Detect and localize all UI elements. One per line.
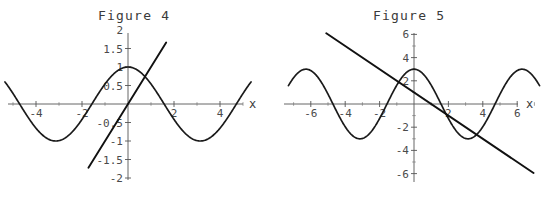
- line-1-x: [326, 33, 533, 173]
- y-tick-label: -2: [396, 121, 409, 134]
- x-tick-label: -6: [304, 107, 317, 120]
- y-tick-label: -1.5: [97, 154, 124, 167]
- y-tick-label: -6: [396, 168, 409, 181]
- x-tick-label: 4: [217, 107, 224, 120]
- line-x: [88, 43, 166, 168]
- figure-4-plot: -4-22421.510.5-0.5-1-1.5-2x: [0, 0, 276, 202]
- figure-5-plot: -6-4-2246642-2-4-6x: [276, 0, 553, 202]
- figure-4-svg: -4-22421.510.5-0.5-1-1.5-2x: [0, 0, 276, 202]
- figure-4: Figure 4 -4-22421.510.5-0.5-1-1.5-2x: [0, 0, 276, 202]
- y-tick-label: 1.5: [103, 43, 123, 56]
- x-tick-label: 4: [479, 107, 486, 120]
- y-tick-label: -1: [110, 135, 123, 148]
- y-tick-label: 2: [116, 24, 123, 37]
- y-tick-label: 4: [402, 52, 409, 65]
- figure-5-svg: -6-4-2246642-2-4-6x: [276, 0, 553, 202]
- figure-pair-container: Figure 4 -4-22421.510.5-0.5-1-1.5-2x Fig…: [0, 0, 553, 202]
- x-axis-label: x: [249, 97, 256, 111]
- y-tick-label: -2: [110, 172, 123, 185]
- y-tick-label: -4: [396, 144, 410, 157]
- figure-5: Figure 5 -6-4-2246642-2-4-6x: [276, 0, 553, 202]
- x-axis-label: x: [526, 97, 533, 111]
- y-tick-label: 6: [402, 28, 409, 41]
- x-tick-label: -4: [29, 107, 43, 120]
- x-tick-label: 6: [514, 107, 521, 120]
